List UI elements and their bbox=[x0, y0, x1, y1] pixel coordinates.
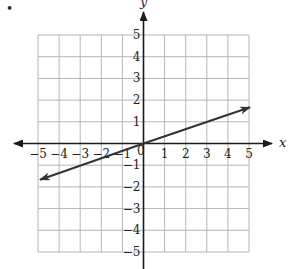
bullet-marker: • bbox=[6, 2, 13, 16]
y-axis-label: y bbox=[139, 0, 148, 9]
x-tick-label: −4 bbox=[50, 147, 68, 161]
origin-label: 0 bbox=[137, 144, 145, 158]
y-tick-label: 3 bbox=[133, 71, 141, 85]
y-tick-label: 4 bbox=[133, 50, 141, 64]
x-tick-label: 4 bbox=[224, 147, 232, 161]
y-tick-label: 2 bbox=[133, 93, 141, 107]
y-tick-label: −3 bbox=[123, 202, 141, 216]
line-right-ray bbox=[144, 107, 251, 143]
y-tick-label: −5 bbox=[123, 245, 141, 259]
x-tick-label: −5 bbox=[29, 147, 47, 161]
x-tick-label: 5 bbox=[245, 147, 253, 161]
y-tick-label: −2 bbox=[123, 180, 141, 194]
y-tick-label: −4 bbox=[123, 223, 141, 237]
x-tick-label: −3 bbox=[71, 147, 89, 161]
x-axis-label: x bbox=[279, 135, 287, 150]
x-tick-label: 3 bbox=[203, 147, 211, 161]
y-tick-label: 5 bbox=[133, 28, 141, 42]
x-tick-label: 1 bbox=[161, 147, 169, 161]
y-tick-label: −1 bbox=[123, 158, 141, 172]
x-tick-label: 2 bbox=[182, 147, 190, 161]
y-tick-label: 1 bbox=[133, 115, 141, 129]
coordinate-plane: • −5−4−3−2−112345−5−4−3−2−112345 x y 0 bbox=[0, 0, 290, 269]
